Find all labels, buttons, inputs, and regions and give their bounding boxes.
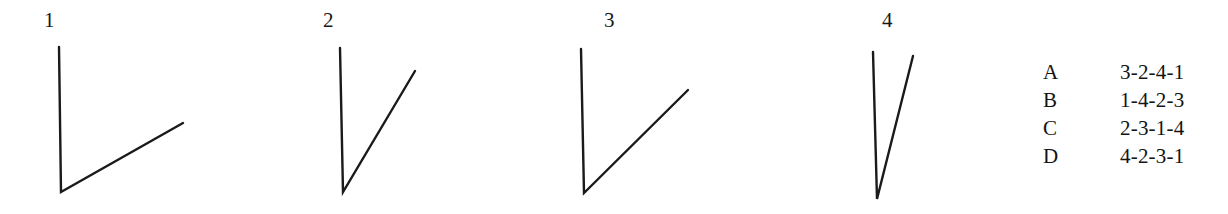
answer-option-a[interactable]: A 3-2-4-1 — [1030, 58, 1228, 86]
option-sequence-c: 2-3-1-4 — [1120, 114, 1184, 142]
option-letter-c: C — [1043, 114, 1057, 142]
answer-option-b[interactable]: B 1-4-2-3 — [1030, 86, 1228, 114]
figures-area: 1 2 3 4 — [0, 0, 1000, 214]
answer-options-list: A 3-2-4-1 B 1-4-2-3 C 2-3-1-4 D 4-2-3-1 — [1030, 55, 1228, 185]
option-sequence-b: 1-4-2-3 — [1120, 86, 1184, 114]
option-letter-a: A — [1043, 58, 1058, 86]
answer-option-d[interactable]: D 4-2-3-1 — [1030, 142, 1228, 170]
angle-figure-4: 4 — [0, 0, 230, 214]
option-letter-d: D — [1043, 142, 1058, 170]
angle-drawing-4 — [0, 0, 1000, 214]
option-sequence-d: 4-2-3-1 — [1120, 142, 1184, 170]
option-sequence-a: 3-2-4-1 — [1120, 58, 1184, 86]
answer-option-c[interactable]: C 2-3-1-4 — [1030, 114, 1228, 142]
option-letter-b: B — [1043, 86, 1057, 114]
